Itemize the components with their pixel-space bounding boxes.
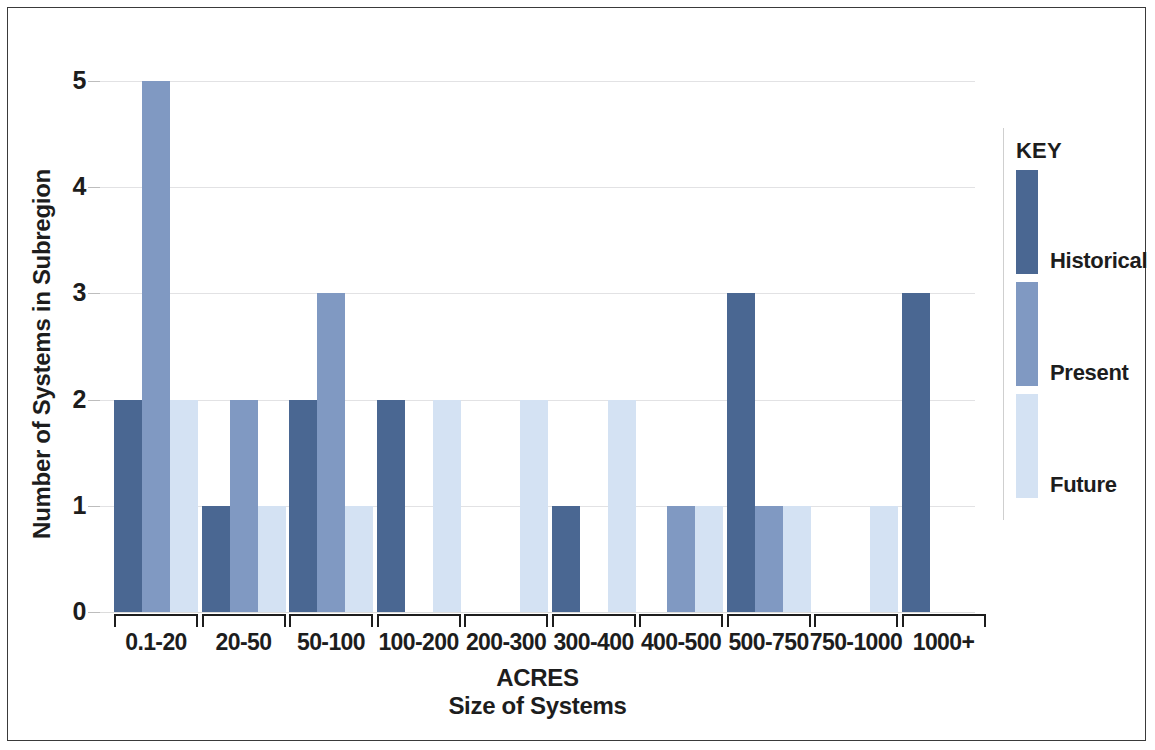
x-axis-title-line2: Size of Systems [100,692,975,720]
x-axis-bracket [114,614,198,627]
x-axis-bracket [639,614,723,627]
bar-future [258,506,286,612]
bar-group [902,81,986,612]
bar-future [433,400,461,612]
bar-historical [114,400,142,612]
x-axis-title: ACRES Size of Systems [100,664,975,719]
bar-future [520,400,548,612]
y-axis-title: Number of Systems in Subregion [28,144,56,564]
bar-group [377,81,461,612]
x-axis-bracket [727,614,811,627]
bar-historical [202,506,230,612]
legend: KEY HistoricalPresentFuture [1016,138,1146,506]
bar-future [608,400,636,612]
x-axis-bracket [377,614,461,627]
legend-entries: HistoricalPresentFuture [1016,170,1146,506]
bar-historical [377,400,405,612]
x-axis-title-line1: ACRES [496,664,579,691]
x-axis-bracket [552,614,636,627]
bar-future [695,506,723,612]
bar-future [870,506,898,612]
legend-title: KEY [1016,138,1146,164]
bar-future [345,506,373,612]
bar-group [289,81,373,612]
x-axis-bracket [202,614,286,627]
bar-future [783,506,811,612]
bar-present [142,81,170,612]
x-axis-bracket [814,614,898,627]
gridline-0 [100,612,975,613]
legend-swatch-historical [1016,170,1038,274]
bar-historical [727,293,755,612]
bar-group [464,81,548,612]
bar-group [202,81,286,612]
bar-present [755,506,783,612]
bar-group [639,81,723,612]
x-axis-bracket [289,614,373,627]
chart-figure: 012345 Number of Systems in Subregion 0.… [0,0,1155,750]
bar-historical [902,293,930,612]
x-axis-bracket [464,614,548,627]
y-tick-label-5: 5 [46,68,86,93]
legend-entry-historical: Historical [1016,170,1146,282]
legend-swatch-future [1016,394,1038,498]
bar-historical [552,506,580,612]
legend-label-historical: Historical [1050,248,1147,274]
legend-swatch-present [1016,282,1038,386]
y-tick-label-0: 0 [46,599,86,624]
legend-entry-present: Present [1016,282,1146,394]
legend-divider [1003,128,1004,520]
bar-historical [289,400,317,612]
legend-label-present: Present [1050,360,1129,386]
bar-present [230,400,258,612]
bar-present [317,293,345,612]
x-axis-bracket [902,614,986,627]
x-axis-label: 1000+ [888,630,1000,654]
bar-group [814,81,898,612]
legend-entry-future: Future [1016,394,1146,506]
plot-area [100,81,975,612]
bar-group [552,81,636,612]
legend-label-future: Future [1050,472,1117,498]
bar-present [667,506,695,612]
bar-future [170,400,198,612]
bar-group [114,81,198,612]
bar-group [727,81,811,612]
